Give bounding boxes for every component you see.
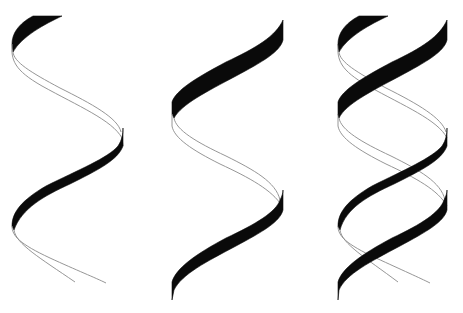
helix-strand-b-graphic [150,0,310,313]
ribbon-front-segment [12,128,123,230]
ribbon-back-edge [12,44,123,146]
ribbon-back-edge [12,226,106,283]
panel-single-helix-a: Single helix (strand A) [0,0,150,313]
panel-double-helix: Double helix (strands A + B) [310,0,463,313]
ribbon-front-segment [172,190,283,300]
helix-strand-a-graphic [0,0,150,313]
ribbon-front-segment [338,16,388,52]
double-helix-graphic [310,0,463,313]
panel-single-helix-b: Single helix (strand B) [150,0,310,313]
ribbon-back-edge [13,52,121,132]
ribbon-front-segment [12,16,62,52]
ribbon-front-segment [172,20,283,118]
ribbon-back-edge [172,114,282,206]
ribbon-back-edge [14,230,75,282]
helix-figure: Single helix (strand A) Single helix (st… [0,0,463,313]
